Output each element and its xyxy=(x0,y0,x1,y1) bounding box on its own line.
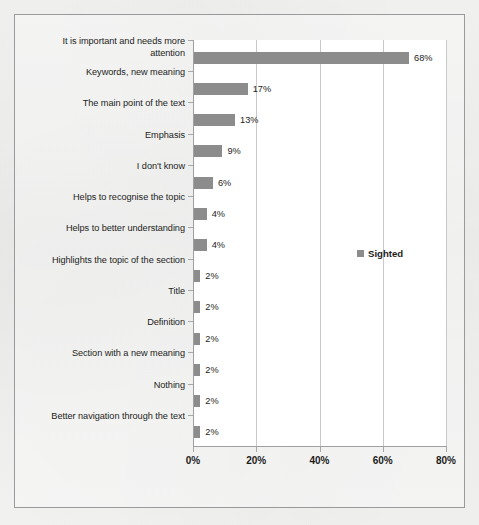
bar xyxy=(194,395,200,407)
x-tick-60% xyxy=(383,447,384,452)
category-label: It is important and needs more attention xyxy=(30,36,185,59)
category-label: Definition xyxy=(30,317,185,329)
bar-value-label: 2% xyxy=(205,426,218,438)
x-axis-tick-label: 40% xyxy=(300,455,340,466)
bar-value-label: 68% xyxy=(414,52,432,64)
legend-label-sighted: Sighted xyxy=(368,248,403,259)
y-tick xyxy=(188,352,193,353)
chart-legend: Sighted xyxy=(357,248,403,259)
y-tick xyxy=(188,102,193,103)
y-tick xyxy=(188,384,193,385)
gridline-80% xyxy=(446,40,447,446)
bar-value-label: 17% xyxy=(253,83,271,95)
bar-value-label: 4% xyxy=(212,239,225,251)
y-tick xyxy=(188,259,193,260)
y-tick xyxy=(188,196,193,197)
category-label: Title xyxy=(30,286,185,298)
bar-value-label: 2% xyxy=(205,364,218,376)
category-label: Helps to recognise the topic xyxy=(30,192,185,204)
bar xyxy=(194,301,200,313)
bar xyxy=(194,333,200,345)
category-label: The main point of the text xyxy=(30,98,185,110)
x-tick-40% xyxy=(320,447,321,452)
legend-swatch-sighted xyxy=(357,250,364,257)
x-tick-80% xyxy=(446,447,447,452)
bar xyxy=(194,145,222,157)
y-tick xyxy=(188,165,193,166)
x-axis-tick-label: 60% xyxy=(363,455,403,466)
bar xyxy=(194,83,248,95)
x-axis-tick-label: 0% xyxy=(173,455,213,466)
bar xyxy=(194,114,235,126)
y-tick xyxy=(188,71,193,72)
category-label: Better navigation through the text xyxy=(30,411,185,423)
bar-value-label: 2% xyxy=(205,301,218,313)
bar xyxy=(194,270,200,282)
category-label: Highlights the topic of the section xyxy=(30,255,185,267)
category-label: Helps to better understanding xyxy=(30,223,185,235)
x-axis-tick-label: 80% xyxy=(426,455,466,466)
category-label: I don't know xyxy=(30,161,185,173)
x-tick-0% xyxy=(193,447,194,452)
category-label: Nothing xyxy=(30,380,185,392)
gridline-20% xyxy=(256,40,257,446)
bar-value-label: 13% xyxy=(240,114,258,126)
gridline-40% xyxy=(320,40,321,446)
bar-value-label: 2% xyxy=(205,333,218,345)
bar-value-label: 2% xyxy=(205,395,218,407)
y-tick xyxy=(188,321,193,322)
category-label: Keywords, new meaning xyxy=(30,67,185,79)
bar xyxy=(194,426,200,438)
chart-page: It is important and needs more attention… xyxy=(0,0,479,525)
category-label: Emphasis xyxy=(30,130,185,142)
y-tick xyxy=(188,134,193,135)
y-tick xyxy=(188,227,193,228)
gridline-60% xyxy=(383,40,384,446)
y-tick xyxy=(188,40,193,41)
y-tick xyxy=(188,415,193,416)
bar-value-label: 9% xyxy=(227,145,240,157)
bar-value-label: 4% xyxy=(212,208,225,220)
plot-area xyxy=(193,40,446,446)
x-tick-20% xyxy=(256,447,257,452)
bar xyxy=(194,239,207,251)
bar xyxy=(194,52,409,64)
category-label: Section with a new meaning xyxy=(30,348,185,360)
bar xyxy=(194,177,213,189)
bar-value-label: 2% xyxy=(205,270,218,282)
y-tick xyxy=(188,290,193,291)
bar-value-label: 6% xyxy=(218,177,231,189)
x-axis-tick-label: 20% xyxy=(236,455,276,466)
bar xyxy=(194,208,207,220)
bar xyxy=(194,364,200,376)
